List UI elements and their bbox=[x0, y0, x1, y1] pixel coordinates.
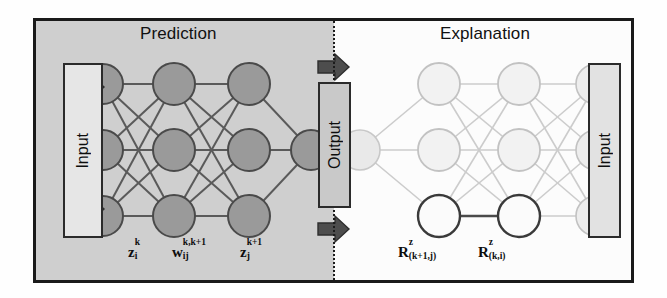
label-z-k1-base: z bbox=[240, 244, 247, 260]
label-w-k-k1: wk,k+1ij bbox=[172, 244, 183, 261]
label-w-base: w bbox=[172, 244, 183, 260]
panel-explanation bbox=[334, 21, 631, 280]
label-r-k1-j: Rz(k+1,j) bbox=[398, 244, 409, 261]
figure-root: Input Output Input Prediction Explanatio… bbox=[0, 0, 667, 298]
output-box: Output bbox=[318, 82, 351, 208]
input-box-left: Input bbox=[63, 63, 103, 238]
input-left-label: Input bbox=[74, 133, 92, 169]
label-z-k-base: z bbox=[128, 244, 135, 260]
label-z-k1: zk+1j bbox=[240, 244, 247, 261]
input-right-label: Input bbox=[596, 133, 614, 169]
title-explanation: Explanation bbox=[440, 24, 530, 44]
output-label: Output bbox=[326, 121, 344, 169]
label-z-k: zki bbox=[128, 244, 135, 261]
title-prediction: Prediction bbox=[140, 24, 217, 44]
label-r1-base: R bbox=[398, 244, 409, 260]
label-r-k-i: Rz(k,i) bbox=[478, 244, 489, 261]
label-r2-base: R bbox=[478, 244, 489, 260]
input-box-right: Input bbox=[588, 63, 621, 238]
